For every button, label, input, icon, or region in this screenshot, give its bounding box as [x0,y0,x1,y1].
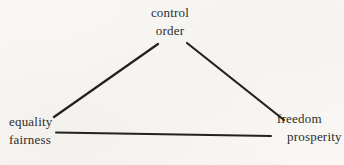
node-control-order-line1: control [110,4,230,22]
node-control-order-line2: order [110,22,230,40]
edge-equality-freedom [56,133,271,137]
triangle-diagram: control order equality fairness freedom … [0,0,344,165]
node-equality-fairness: equality fairness [9,113,52,149]
node-equality-fairness-line1: equality [9,113,52,131]
node-control-order: control order [110,4,230,40]
node-freedom-prosperity: freedom prosperity [277,110,342,146]
node-freedom-prosperity-line2: prosperity [277,128,342,146]
edge-control-freedom [187,43,284,120]
node-equality-fairness-line2: fairness [9,131,52,149]
edge-control-equality [54,44,158,117]
node-freedom-prosperity-line1: freedom [277,110,342,128]
